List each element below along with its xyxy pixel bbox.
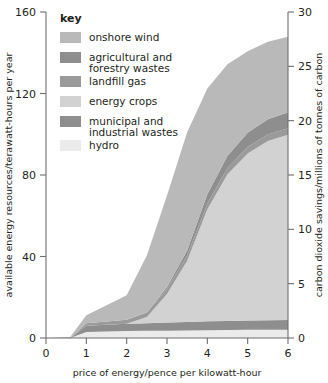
x-tick-label: 4 bbox=[204, 347, 211, 360]
y-tick-label-left: 120 bbox=[15, 88, 36, 101]
y-tick-label-left: 80 bbox=[22, 169, 36, 182]
stacked-area-chart: 012345604080120160051015202530 price of … bbox=[0, 0, 328, 383]
x-tick-label: 0 bbox=[43, 347, 50, 360]
x-tick-label: 6 bbox=[285, 347, 292, 360]
legend-swatch bbox=[60, 52, 81, 63]
y-tick-label-left: 0 bbox=[29, 332, 36, 345]
legend-title: key bbox=[60, 12, 82, 25]
legend-swatch bbox=[60, 116, 81, 127]
legend-label: landfill gas bbox=[89, 75, 146, 87]
y-tick-label-right: 15 bbox=[298, 169, 312, 182]
x-tick-label: 1 bbox=[83, 347, 90, 360]
chart-figure: 012345604080120160051015202530 price of … bbox=[0, 0, 328, 383]
legend-swatch bbox=[60, 140, 81, 151]
y-tick-label-left: 160 bbox=[15, 6, 36, 19]
legend-label: forestry wastes bbox=[89, 62, 170, 74]
y-tick-label-right: 30 bbox=[298, 6, 312, 19]
x-axis-title: price of energy/pence per kilowatt-hour bbox=[73, 367, 262, 378]
y-tick-label-right: 20 bbox=[298, 115, 312, 128]
x-tick-label: 5 bbox=[244, 347, 251, 360]
legend-label: industrial wastes bbox=[89, 126, 178, 138]
legend: keyonshore windagricultural andforestry … bbox=[60, 12, 178, 151]
legend-swatch bbox=[60, 76, 81, 87]
x-tick-label: 2 bbox=[123, 347, 130, 360]
legend-label: hydro bbox=[89, 139, 119, 151]
y-tick-label-right: 0 bbox=[298, 332, 305, 345]
area-series-group bbox=[46, 37, 288, 338]
legend-label: energy crops bbox=[89, 95, 157, 107]
y-tick-label-right: 25 bbox=[298, 60, 312, 73]
y-tick-label-right: 10 bbox=[298, 223, 312, 236]
y-axis-right-title: carbon dioxide savings/millions of tonne… bbox=[313, 53, 324, 298]
y-axis-left-title: available energy resources/terawatt-hour… bbox=[3, 53, 14, 298]
legend-swatch bbox=[60, 32, 81, 43]
y-tick-label-left: 40 bbox=[22, 251, 36, 264]
legend-swatch bbox=[60, 96, 81, 107]
x-tick-label: 3 bbox=[164, 347, 171, 360]
legend-label: onshore wind bbox=[89, 31, 159, 43]
y-tick-label-right: 5 bbox=[298, 278, 305, 291]
